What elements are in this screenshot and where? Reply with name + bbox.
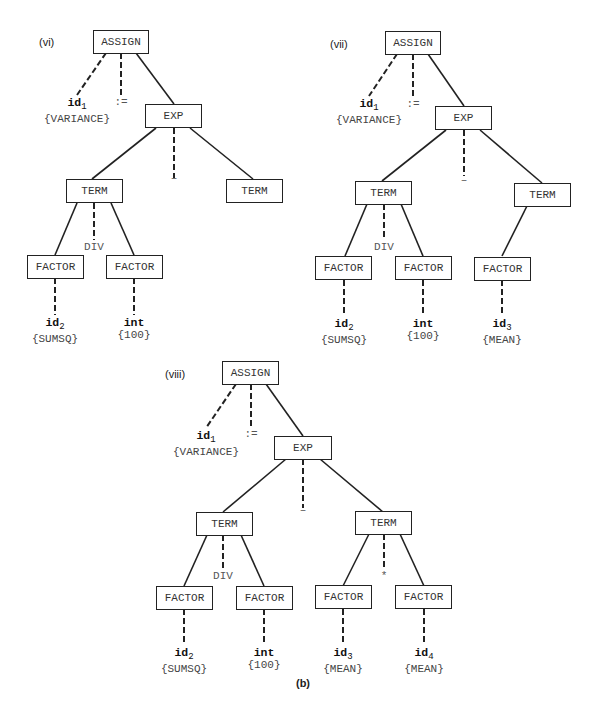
assign-operator: := <box>244 428 257 440</box>
exp-node: EXP <box>145 104 202 128</box>
assign-node: ASSIGN <box>385 31 441 55</box>
term-node: TERM <box>226 179 283 203</box>
div-operator: DIV <box>213 570 233 582</box>
tree-label: (viii) <box>165 368 185 380</box>
div-operator: DIV <box>84 241 104 253</box>
leaf-int: int{100} <box>406 318 439 342</box>
minus-operator: – <box>171 172 178 184</box>
factor-node: FACTOR <box>315 256 372 280</box>
leaf-id2: id2{SUMSQ} <box>321 318 367 346</box>
multiply-operator: * <box>381 570 388 582</box>
leaf-id2: id2{SUMSQ} <box>161 647 207 675</box>
tree-label: (vi) <box>39 36 54 48</box>
tree-label: (vii) <box>330 38 348 50</box>
term-node: TERM <box>514 183 571 207</box>
leaf-id4: id4{MEAN} <box>404 647 444 675</box>
leaf-id3: id3{MEAN} <box>482 318 522 346</box>
assign-operator: := <box>406 98 419 110</box>
leaf-id1: id1{VARIANCE} <box>173 430 239 458</box>
factor-node: FACTOR <box>395 256 452 280</box>
term-node: TERM <box>355 181 412 205</box>
factor-node: FACTOR <box>236 586 293 610</box>
factor-node: FACTOR <box>474 257 531 281</box>
div-operator: DIV <box>374 241 394 253</box>
exp-node: EXP <box>274 436 332 460</box>
term-node: TERM <box>196 512 253 536</box>
leaf-int: int{100} <box>117 317 150 341</box>
leaf-id1: id1{VARIANCE} <box>336 98 402 126</box>
factor-node: FACTOR <box>156 586 213 610</box>
minus-operator: – <box>300 504 307 516</box>
factor-node: FACTOR <box>27 255 84 279</box>
minus-operator: – <box>461 174 468 186</box>
term-node: TERM <box>355 511 412 535</box>
factor-node: FACTOR <box>315 585 372 609</box>
factor-node: FACTOR <box>395 585 452 609</box>
leaf-id2: id2{SUMSQ} <box>32 317 78 345</box>
factor-node: FACTOR <box>106 255 163 279</box>
leaf-int: int{100} <box>247 647 280 671</box>
leaf-id3: id3{MEAN} <box>323 647 363 675</box>
term-node: TERM <box>66 179 123 203</box>
assign-node: ASSIGN <box>222 361 279 385</box>
figure-caption: (b) <box>296 677 310 689</box>
leaf-id1: id1{VARIANCE} <box>44 97 110 125</box>
exp-node: EXP <box>435 106 492 130</box>
assign-operator: := <box>114 96 127 108</box>
assign-node: ASSIGN <box>93 30 149 54</box>
